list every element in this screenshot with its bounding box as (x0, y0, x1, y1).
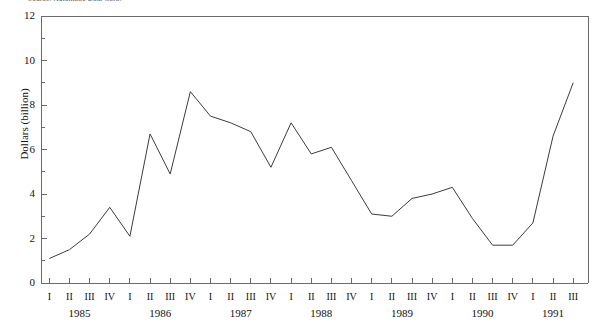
axes (41, 16, 588, 283)
x-axis-year-label: 1988 (291, 307, 351, 319)
axis-ticks (41, 16, 573, 283)
x-axis-year-label: 1985 (50, 307, 110, 319)
x-axis-year-label: 1987 (211, 307, 271, 319)
data-series-line (49, 83, 573, 259)
line-chart: Source: Automatic Data Corp. Dollars (bi… (0, 0, 594, 328)
x-axis-year-label: 1990 (453, 307, 513, 319)
x-axis-year-label: 1986 (130, 307, 190, 319)
plot-area (0, 0, 594, 328)
x-axis-year-label: 1989 (372, 307, 432, 319)
x-axis-quarter-label: III (561, 291, 585, 302)
x-axis-year-label: 1991 (523, 307, 583, 319)
